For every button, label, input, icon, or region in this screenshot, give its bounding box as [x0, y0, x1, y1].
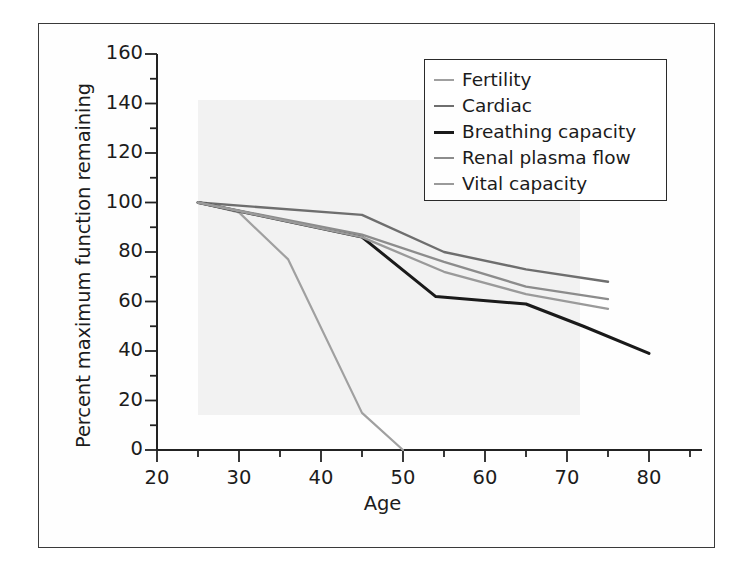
- legend-item-fertility[interactable]: Fertility: [425, 67, 666, 93]
- legend-swatch-icon: [434, 79, 454, 81]
- x-tick-label: 20: [131, 466, 183, 489]
- legend-item-vital-capacity[interactable]: Vital capacity: [425, 171, 666, 197]
- series-line-fertility: [198, 203, 403, 451]
- series-layer: [198, 203, 649, 451]
- legend-item-breathing-capacity[interactable]: Breathing capacity: [425, 119, 666, 145]
- y-tick-label: 60: [91, 289, 143, 312]
- y-tick-label: 20: [91, 388, 143, 411]
- legend-label: Breathing capacity: [462, 123, 636, 142]
- legend-item-cardiac[interactable]: Cardiac: [425, 93, 666, 119]
- y-tick-label: 0: [91, 437, 143, 460]
- y-tick-label: 100: [91, 190, 143, 213]
- y-tick-label: 40: [91, 338, 143, 361]
- legend-label: Vital capacity: [462, 175, 587, 194]
- legend-swatch-icon: [434, 131, 454, 134]
- legend-swatch-icon: [434, 183, 454, 185]
- figure-container: Percent maximum function remaining 02040…: [0, 0, 745, 577]
- x-tick-label: 40: [295, 466, 347, 489]
- x-tick-label: 50: [377, 466, 429, 489]
- legend-label: Renal plasma flow: [462, 149, 631, 168]
- x-tick-label: 60: [459, 466, 511, 489]
- legend-swatch-icon: [434, 105, 454, 107]
- y-tick-label: 120: [91, 140, 143, 163]
- legend-label: Cardiac: [462, 97, 532, 116]
- y-tick-label: 140: [91, 91, 143, 114]
- series-line-vital-capacity: [198, 203, 608, 309]
- y-tick-label: 160: [91, 41, 143, 64]
- legend-label: Fertility: [462, 71, 532, 90]
- x-tick-label: 30: [213, 466, 265, 489]
- y-tick-label: 80: [91, 239, 143, 262]
- legend-item-renal-plasma-flow[interactable]: Renal plasma flow: [425, 145, 666, 171]
- legend-swatch-icon: [434, 157, 454, 159]
- chart-legend: FertilityCardiacBreathing capacityRenal …: [424, 59, 667, 201]
- x-axis-title-wrap: Age: [0, 492, 745, 515]
- x-tick-label: 80: [623, 466, 675, 489]
- x-axis-title: Age: [364, 492, 402, 515]
- x-tick-label: 70: [541, 466, 593, 489]
